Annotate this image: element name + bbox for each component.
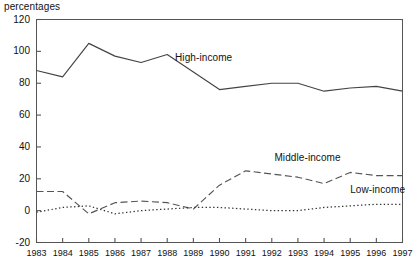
y-tick-label: 80 (0, 78, 30, 88)
chart-container: percentages -20020406080100120 198319841… (0, 0, 415, 264)
y-tick-label: -20 (0, 238, 30, 248)
axis-units-label: percentages (4, 1, 60, 13)
y-tick-label: 100 (0, 46, 30, 56)
x-tick-label: 1992 (262, 248, 282, 258)
x-tick-label: 1997 (392, 248, 412, 258)
y-tick-label: 40 (0, 142, 30, 152)
x-tick-label: 1989 (183, 248, 203, 258)
x-tick-label: 1986 (105, 248, 125, 258)
y-tick-label: 120 (0, 15, 30, 25)
x-tick-label: 1995 (340, 248, 360, 258)
x-tick-label: 1985 (79, 248, 99, 258)
x-tick-label: 1994 (314, 248, 334, 258)
x-tick-label: 1988 (157, 248, 177, 258)
y-tick-label: 60 (0, 110, 30, 120)
series-annotation-low-income: Low-income (350, 184, 405, 195)
x-tick-label: 1983 (26, 248, 46, 258)
x-tick-label: 1996 (366, 248, 386, 258)
y-tick-label: 20 (0, 174, 30, 184)
x-tick-label: 1991 (236, 248, 256, 258)
x-tick-label: 1987 (131, 248, 151, 258)
x-tick-label: 1990 (209, 248, 229, 258)
x-tick-label: 1984 (53, 248, 73, 258)
series-annotation-high-income: High-income (175, 52, 232, 63)
series-annotation-middle-income: Middle-income (274, 152, 340, 163)
x-tick-label: 1993 (288, 248, 308, 258)
y-tick-label: 0 (0, 206, 30, 216)
